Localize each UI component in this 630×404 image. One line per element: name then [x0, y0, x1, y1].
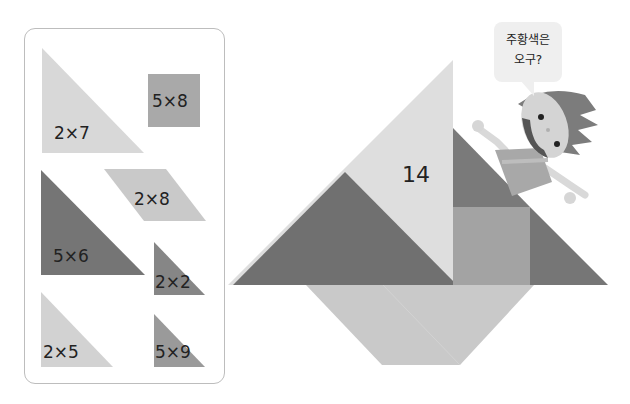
piece-label: 2×7 — [54, 123, 90, 143]
speech-line-2: 오구? — [494, 50, 562, 70]
nose — [546, 128, 550, 132]
boat-hull — [306, 285, 534, 365]
right-eye — [554, 141, 560, 147]
sail-square[interactable] — [453, 207, 530, 285]
piece-label: 5×9 — [155, 342, 191, 362]
sail-right-triangle[interactable] — [530, 207, 608, 285]
piece-2x8[interactable]: 2×8 — [104, 169, 206, 221]
piece-2x7[interactable]: 2×7 — [42, 48, 144, 153]
left-arm — [478, 128, 505, 150]
piece-5x8[interactable]: 5×8 — [148, 74, 200, 127]
left-hand — [472, 120, 484, 132]
piece-2x5[interactable]: 2×5 — [41, 292, 113, 367]
left-eye — [538, 114, 544, 120]
piece-5x9[interactable]: 5×9 — [154, 314, 205, 367]
speech-bubble: 주황색은 오구? — [494, 22, 562, 82]
piece-label: 2×5 — [43, 342, 79, 362]
piece-2x2[interactable]: 2×2 — [154, 242, 205, 295]
sail-number-label: 14 — [402, 162, 430, 187]
speech-bubble-tail — [520, 80, 534, 96]
piece-label: 5×8 — [152, 91, 188, 111]
piece-label: 2×2 — [155, 272, 191, 292]
piece-label: 5×6 — [53, 246, 89, 266]
shirt-stripe — [502, 160, 548, 162]
right-hand — [564, 192, 576, 204]
piece-label: 2×8 — [134, 189, 170, 209]
speech-bubble-text: 주황색은 오구? — [494, 30, 562, 70]
speech-line-1: 주황색은 — [494, 30, 562, 50]
